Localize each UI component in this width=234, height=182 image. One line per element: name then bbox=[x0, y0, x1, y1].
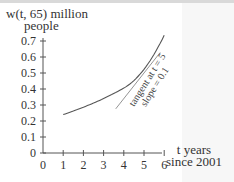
svg-text:0.4: 0.4 bbox=[21, 82, 36, 96]
x-axis-label: t years since 2001 bbox=[166, 144, 222, 168]
svg-text:3: 3 bbox=[101, 158, 107, 172]
svg-text:0.5: 0.5 bbox=[21, 66, 36, 80]
svg-text:4: 4 bbox=[121, 158, 127, 172]
svg-text:0.7: 0.7 bbox=[21, 34, 36, 48]
y-axis-label-line2: people bbox=[6, 20, 88, 32]
svg-text:0.1: 0.1 bbox=[21, 130, 36, 144]
svg-text:0.2: 0.2 bbox=[21, 114, 36, 128]
svg-text:1: 1 bbox=[60, 158, 66, 172]
svg-text:2: 2 bbox=[80, 158, 86, 172]
svg-text:0: 0 bbox=[40, 158, 46, 172]
svg-text:0.6: 0.6 bbox=[21, 50, 36, 64]
tangent-annotation: tangent at t = 5 slope = 0.1 bbox=[126, 51, 176, 113]
y-ticks: 00.10.20.30.40.50.60.7 bbox=[21, 34, 46, 160]
y-axis-label: w(t, 65) million people bbox=[6, 8, 88, 32]
svg-text:0.3: 0.3 bbox=[21, 98, 36, 112]
svg-text:5: 5 bbox=[141, 158, 147, 172]
x-axis-label-line2: since 2001 bbox=[166, 156, 222, 168]
svg-text:0: 0 bbox=[30, 146, 36, 160]
